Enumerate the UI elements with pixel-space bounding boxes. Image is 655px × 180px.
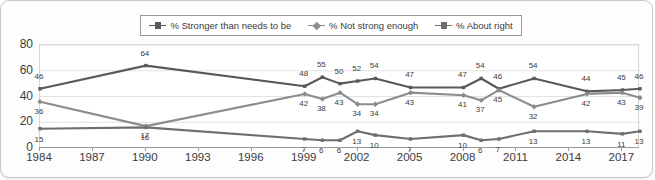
data-label: 16 <box>134 134 156 142</box>
data-label: 39 <box>628 104 650 112</box>
x-axis-tick <box>251 147 252 151</box>
data-label: 54 <box>363 62 385 70</box>
data-label: 64 <box>134 50 156 58</box>
x-axis-tick <box>515 147 516 151</box>
x-axis-tick <box>198 147 199 151</box>
x-axis-tick-label: 1987 <box>69 151 115 163</box>
data-label: 10 <box>363 142 385 150</box>
x-axis-tick <box>621 147 622 151</box>
legend-item-about-right[interactable]: % About right <box>435 20 513 31</box>
data-label: 46 <box>628 73 650 81</box>
x-axis-tick-label: 2005 <box>387 151 433 163</box>
data-label: 37 <box>469 106 491 114</box>
legend-label-not-strong-enough: % Not strong enough <box>329 20 418 31</box>
legend-item-stronger-than-needs-to-be[interactable]: % Stronger than needs to be <box>149 20 291 31</box>
data-label: 46 <box>487 73 509 81</box>
data-label: 48 <box>293 70 315 78</box>
data-label: 43 <box>328 99 350 107</box>
data-label: 44 <box>575 75 597 83</box>
y-axis-tick-label: 20 <box>3 115 33 127</box>
data-label: 13 <box>575 138 597 146</box>
data-label: 47 <box>399 71 421 79</box>
y-axis-tick-label: 80 <box>3 38 33 50</box>
chart-lines <box>40 45 640 148</box>
data-label: 34 <box>363 110 385 118</box>
x-axis-tick <box>145 147 146 151</box>
y-axis-tick-label: 40 <box>3 90 33 102</box>
data-label: 45 <box>487 96 509 104</box>
data-label: 54 <box>469 62 491 70</box>
y-axis-tick-label: 60 <box>3 64 33 76</box>
x-axis-tick <box>410 147 411 151</box>
data-label: 54 <box>522 62 544 70</box>
chart-container: % Stronger than needs to be % Not strong… <box>0 0 653 178</box>
x-axis-tick-label: 2014 <box>545 151 591 163</box>
plot-area <box>39 44 639 147</box>
legend-marker-diamond-icon <box>308 21 325 30</box>
x-axis-tick <box>568 147 569 151</box>
x-axis-tick-label: 1993 <box>175 151 221 163</box>
x-axis-tick-label: 1996 <box>228 151 274 163</box>
data-label: 43 <box>399 99 421 107</box>
x-axis-tick <box>463 147 464 151</box>
x-axis-tick <box>92 147 93 151</box>
chart-legend: % Stronger than needs to be % Not strong… <box>140 15 522 36</box>
x-axis-tick-label: 1999 <box>281 151 327 163</box>
legend-label-about-right: % About right <box>456 20 513 31</box>
x-axis-tick-label: 1990 <box>122 151 168 163</box>
x-axis-tick-label: 2008 <box>440 151 486 163</box>
data-label: 13 <box>628 138 650 146</box>
legend-marker-square-icon <box>435 21 452 30</box>
x-axis-tick-label: 2011 <box>492 151 538 163</box>
x-axis-tick-label: 2017 <box>598 151 644 163</box>
x-axis-tick <box>39 147 40 151</box>
legend-item-not-strong-enough[interactable]: % Not strong enough <box>308 20 418 31</box>
legend-marker-square-icon <box>149 21 166 30</box>
data-label: 47 <box>452 71 474 79</box>
x-axis-tick <box>357 147 358 151</box>
x-axis-tick <box>304 147 305 151</box>
x-axis-tick-label: 2002 <box>334 151 380 163</box>
data-label: 42 <box>575 100 597 108</box>
data-label: 13 <box>522 138 544 146</box>
data-label: 32 <box>522 113 544 121</box>
legend-label-stronger-than-needs-to-be: % Stronger than needs to be <box>170 20 291 31</box>
x-axis-tick-label: 1984 <box>16 151 62 163</box>
